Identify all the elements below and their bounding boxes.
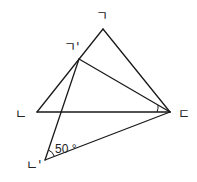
geometry-diagram: ㄱ ㄱ' ㄴ ㄷ ㄴ' 50 ° bbox=[0, 0, 197, 182]
segment-a-c bbox=[103, 29, 170, 112]
vertex-label-b: ㄴ bbox=[15, 106, 27, 121]
vertex-label-c: ㄷ bbox=[178, 106, 190, 121]
angle-arc-bprime bbox=[49, 150, 55, 156]
angle-arc-c bbox=[157, 105, 158, 112]
vertex-label-bprime: ㄴ' bbox=[26, 157, 42, 172]
angle-value-bprime: 50 ° bbox=[55, 142, 77, 156]
vertex-label-aprime: ㄱ' bbox=[64, 39, 80, 54]
segment-aprime-c bbox=[79, 59, 170, 112]
vertex-label-a: ㄱ bbox=[96, 8, 108, 23]
